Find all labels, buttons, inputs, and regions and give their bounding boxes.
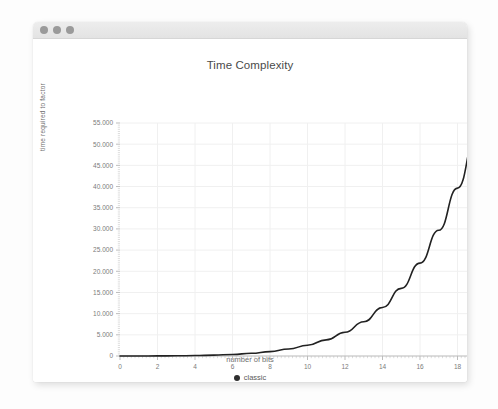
svg-text:10.000: 10.000 (93, 310, 113, 317)
svg-text:15.000: 15.000 (93, 289, 113, 296)
svg-text:55.000: 55.000 (93, 119, 113, 126)
series-line-classic (120, 135, 467, 356)
legend-label-classic: classic (244, 373, 267, 382)
svg-text:25.000: 25.000 (93, 246, 113, 253)
svg-text:45.000: 45.000 (93, 162, 113, 169)
svg-text:5.000: 5.000 (97, 331, 114, 338)
chart-plot: 05.00010.00015.00020.00025.00030.00035.0… (33, 39, 467, 369)
svg-text:30.000: 30.000 (93, 225, 113, 232)
svg-text:20.000: 20.000 (93, 268, 113, 275)
chart-legend: classic (33, 373, 467, 382)
grid-lines (120, 123, 467, 356)
svg-text:50.000: 50.000 (93, 141, 113, 148)
minimize-dot-icon[interactable] (53, 26, 61, 34)
window-titlebar[interactable] (33, 22, 467, 39)
y-axis-ticks: 05.00010.00015.00020.00025.00030.00035.0… (93, 119, 120, 359)
close-dot-icon[interactable] (40, 26, 48, 34)
x-axis-label: number of bits (33, 355, 467, 364)
maximize-dot-icon[interactable] (66, 26, 74, 34)
svg-text:40.000: 40.000 (93, 183, 113, 190)
window-content: Time Complexity time required to factor … (33, 39, 467, 382)
svg-text:35.000: 35.000 (93, 204, 113, 211)
legend-marker-icon (234, 375, 240, 381)
app-window: Time Complexity time required to factor … (33, 22, 467, 382)
